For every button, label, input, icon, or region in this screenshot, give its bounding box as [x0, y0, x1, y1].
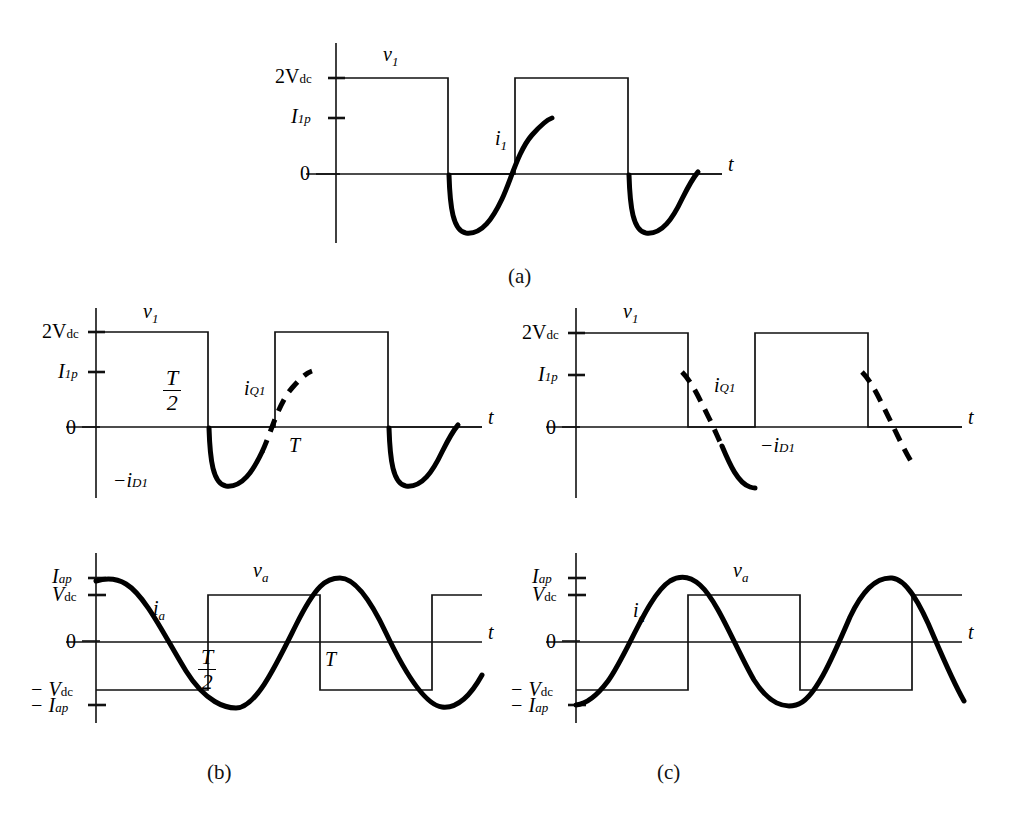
panel-b-top-v1-waveform: [96, 332, 482, 427]
panel-b-top-diode-current-1: [209, 428, 262, 486]
panel-b-bottom-va-label: va: [253, 559, 269, 585]
panel-b-top-half-period-mark: T 2: [163, 367, 181, 414]
panel-a-t-axis-label: t: [728, 153, 734, 175]
panel-a-v1-waveform: [336, 78, 628, 174]
panel-b-bottom-ytick-zero: 0: [66, 630, 76, 653]
panel-c-bottom-ytick-zero: 0: [546, 630, 556, 653]
panel-b-bottom-half-period-mark: T 2: [198, 646, 216, 693]
panel-c-top-chart: v1 t: [500, 300, 1010, 515]
panel-c-top-v1-label: v1: [623, 300, 638, 326]
caption-b: (b): [207, 760, 232, 785]
panel-b-bottom-ytick-neg-iap: − Iap: [30, 694, 68, 717]
panel-a-v1-label: v1: [383, 43, 398, 69]
panel-b-top-ytick-zero: 0: [66, 416, 76, 439]
panel-b-top-t-axis-label: t: [488, 406, 494, 428]
panel-a-ytick-zero: 0: [300, 162, 310, 185]
panel-c-top-t-axis-label: t: [968, 406, 974, 428]
caption-a: (a): [508, 264, 531, 289]
panel-b-top-transistor-current-label: iQ1: [244, 377, 265, 400]
panel-a-zero-tick: [316, 168, 342, 178]
panel-a-i1-label: i1: [495, 127, 507, 153]
panel-c-top-ytick-2vdc: 2Vdc: [522, 321, 559, 344]
panel-a-ytick-2vdc: 2Vdc: [275, 65, 312, 88]
panel-b-top-diode-current-label: −iD1: [113, 469, 148, 492]
panel-b-bottom-ytick-vdc: Vdc: [52, 583, 77, 606]
panel-c-top-transistor-current-label: iQ1: [714, 374, 735, 397]
panel-c-top-diode-current-label: −iD1: [760, 434, 795, 457]
panel-c-bottom-ytick-neg-iap: − Iap: [510, 694, 548, 717]
panel-c-top-transistor-current-2: [862, 372, 912, 463]
caption-c: (c): [657, 760, 680, 785]
panel-b-bottom-zero-tick: [82, 636, 102, 646]
panel-c-top-ytick-zero: 0: [546, 416, 556, 439]
panel-c-bottom-ytick-vdc: Vdc: [532, 583, 557, 606]
panel-a-chart: v1 i1 t: [250, 35, 750, 260]
panel-b-top-transistor-current-1: [262, 371, 312, 452]
panel-b-top-ytick-i1p: I1p: [58, 360, 78, 383]
panel-c-bottom-t-axis-label: t: [968, 621, 974, 643]
panel-b-top-diode-current-2: [389, 425, 458, 486]
panel-c-bottom-ia-label: ia: [633, 599, 646, 625]
panel-b-top-ytick-2vdc: 2Vdc: [42, 320, 79, 343]
panel-b-top-chart: v1 t: [20, 300, 520, 515]
panel-a-ytick-i1p: I1p: [291, 105, 311, 128]
figure-root: v1 i1 t 2Vdc I1p 0 (a) v1 t: [0, 0, 1032, 818]
panel-c-top-ytick-i1p: I1p: [538, 363, 558, 386]
panel-c-top-diode-current-1: [722, 446, 755, 488]
panel-b-top-zero-tick: [82, 422, 102, 432]
panel-b-bottom-period-mark: T: [325, 648, 336, 671]
panel-b-top-v1-label: v1: [143, 300, 158, 326]
panel-c-bottom-zero-tick: [562, 636, 582, 646]
panel-c-top-v1-waveform: [576, 333, 962, 427]
panel-b-bottom-t-axis-label: t: [488, 621, 494, 643]
panel-b-top-period-mark: T: [289, 434, 300, 457]
panel-a-i1-waveform-2: [629, 172, 698, 233]
panel-c-bottom-va-label: va: [733, 559, 749, 585]
panel-c-top-zero-tick: [562, 422, 582, 432]
